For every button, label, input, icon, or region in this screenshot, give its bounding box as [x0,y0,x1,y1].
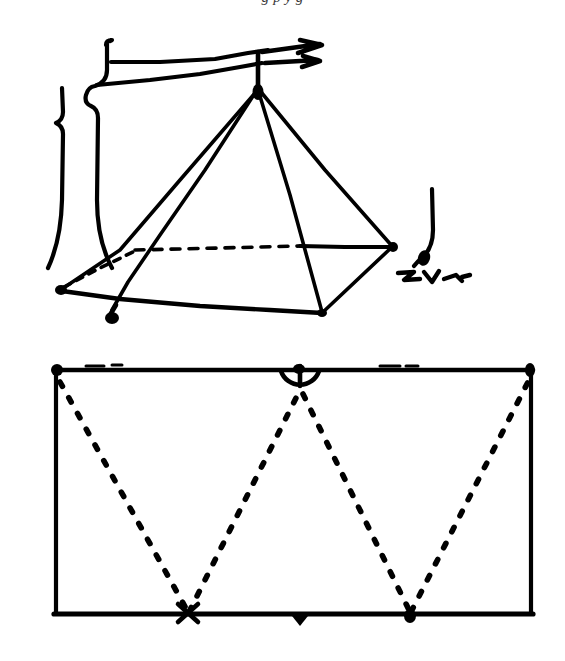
figure-page: g p y g [0,0,565,661]
tick-mark-bottom-middle-icon [292,616,308,626]
base-back-tail-blob [105,312,119,324]
pyramid-sketch [48,40,470,324]
base-edge-front-to-right [322,247,392,313]
base-front-vertex-blob [317,309,327,317]
upper-horizontal-stroke-1 [111,50,268,62]
ray-segment-4-up [411,380,529,612]
pyramid-edge-apex-to-base-left [62,92,256,289]
left-brace-outer-icon [48,88,63,268]
scanned-figure-canvas [0,0,565,661]
right-scribble-annotation [398,271,470,282]
pyramid-edge-apex-to-base-back [112,93,255,310]
base-edge-right-horizontal [300,246,392,247]
left-brace-inner-icon [86,40,112,268]
top-edge-ink-blemish-left [86,365,122,366]
ray-segment-1-down [60,382,188,612]
ray-segment-3-down [303,394,410,612]
base-right-vertex-blob [388,242,398,252]
base-edge-left-to-front [62,291,322,313]
corner-dot-top-left [51,364,63,376]
hidden-base-edge-back-to-right [135,246,300,250]
arc-marker-center-dot [293,364,305,374]
upper-horizontal-stroke-2 [97,63,262,85]
dot-mark-bottom-2 [404,609,416,623]
ray-segment-2-up [189,394,298,612]
apex-arrow-icon [262,40,322,67]
corner-dot-top-right [525,363,535,377]
reflection-diagram [51,363,535,626]
